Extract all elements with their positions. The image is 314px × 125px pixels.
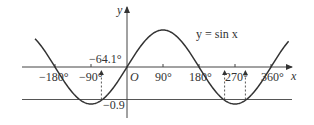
origin-label: O [130, 70, 139, 84]
function-label: y = sin x [196, 27, 238, 41]
tick-label-90: 90° [155, 70, 172, 84]
sine-graph-figure: y x O y = sin x −180° −90° 90° 180° 270°… [0, 0, 314, 125]
tick-label-270: 270° [225, 70, 248, 84]
tick-label-neg180: −180° [39, 70, 69, 84]
tick-label-360: 360° [261, 70, 284, 84]
annotation-neg09-label: −0.9 [103, 98, 125, 112]
tick-label-180: 180° [189, 70, 212, 84]
dashed-annotations [101, 71, 245, 100]
y-axis-label: y [116, 3, 123, 17]
sine-plot: y x O y = sin x −180° −90° 90° 180° 270°… [0, 0, 314, 125]
annotation-neg64-label: −64.1° [89, 52, 122, 66]
x-axis-label: x [290, 69, 297, 83]
tick-label-neg90: −90° [79, 70, 103, 84]
